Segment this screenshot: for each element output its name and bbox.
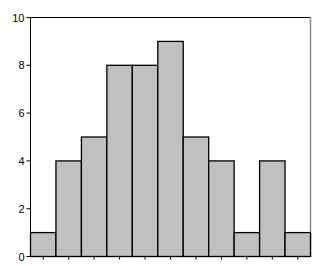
- y-tick-label: 0: [18, 251, 24, 263]
- y-tick-label: 8: [18, 59, 24, 71]
- y-tick-label: 10: [12, 12, 24, 24]
- histogram-bar: [132, 65, 157, 256]
- y-axis: 0246810: [12, 12, 30, 263]
- histogram-bar: [56, 161, 81, 257]
- histogram-bar: [183, 137, 208, 257]
- histogram-bar: [107, 65, 132, 256]
- histogram-bar: [209, 161, 234, 257]
- histogram-bar: [285, 233, 310, 257]
- x-axis: [31, 257, 311, 260]
- histogram-bar: [81, 137, 106, 257]
- y-tick-label: 4: [18, 155, 24, 167]
- histogram-bar: [260, 161, 285, 257]
- histogram-chart: 0246810: [0, 0, 325, 266]
- histogram-bar: [234, 233, 259, 257]
- y-tick-label: 2: [18, 203, 24, 215]
- histogram-bar: [158, 41, 183, 256]
- histogram-bar: [31, 233, 56, 257]
- bars-group: [31, 41, 311, 256]
- y-tick-label: 6: [18, 107, 24, 119]
